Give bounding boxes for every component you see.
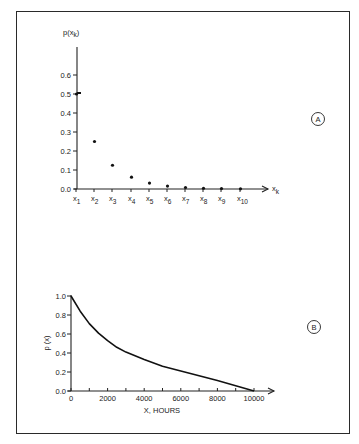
y-tick-label-a: 0.2 [61, 147, 71, 156]
data-point-a [220, 187, 223, 190]
y-tick-label-a: 0.3 [61, 128, 71, 137]
x-tick-label-a: x6 [164, 194, 172, 205]
x-tick-label-a: x9 [218, 194, 226, 205]
y-tick-label-a: 0.1 [61, 166, 71, 175]
x-tick-label-a: x10 [237, 194, 248, 205]
y-tick-label-b: 0.0 [56, 387, 66, 396]
x-tick-label-b: 0 [69, 394, 73, 403]
data-point-a [148, 181, 151, 184]
x-tick-label-a: x2 [91, 194, 99, 205]
x-tick-label-a: x1 [73, 194, 81, 205]
y-tick-label-a: 0.6 [61, 71, 71, 80]
y-tick-label-a: 0.0 [61, 185, 71, 194]
y-tick-label-a: 0.5 [61, 90, 71, 99]
x-tick-label-b: 8000 [209, 394, 226, 403]
x-tick-label-b: 6000 [172, 394, 189, 403]
data-point-a [184, 186, 187, 189]
curve-b [71, 296, 254, 391]
data-point-a [111, 164, 114, 167]
x-tick-label-a: x4 [128, 194, 136, 205]
x-tick-label-a: x5 [146, 194, 154, 205]
x-axis-label-a: xk [272, 184, 280, 195]
data-point-a [130, 176, 133, 179]
data-point-a [202, 187, 205, 190]
data-point-a [93, 140, 96, 143]
data-point-a [239, 187, 242, 190]
panel-label-a: A [315, 115, 320, 124]
x-tick-label-b: 10000 [244, 394, 265, 403]
x-tick-label-a: x7 [182, 194, 190, 205]
data-point-a [166, 184, 169, 187]
panel-label-b: B [311, 323, 316, 332]
y-axis-label-a: p(xk) [63, 28, 80, 38]
x-tick-label-a: x8 [200, 194, 208, 205]
x-tick-label-a: x3 [109, 194, 117, 205]
y-tick-label-b: 0.2 [56, 368, 66, 377]
x-axis-label-b: X, HOURS [144, 406, 180, 415]
y-tick-label-a: 0.4 [61, 109, 71, 118]
x-tick-label-b: 2000 [99, 394, 116, 403]
y-tick-label-b: 0.8 [56, 311, 66, 320]
y-tick-label-b: 1.0 [56, 292, 66, 301]
chart-a: 0.00.10.20.30.40.50.6x1x2x3x4x5x6x7x8x9x… [0, 0, 359, 444]
y-tick-label-b: 0.4 [56, 349, 66, 358]
y-axis-label-b: p (x) [42, 335, 51, 351]
y-tick-label-b: 0.6 [56, 330, 66, 339]
x-tick-label-b: 4000 [136, 394, 153, 403]
